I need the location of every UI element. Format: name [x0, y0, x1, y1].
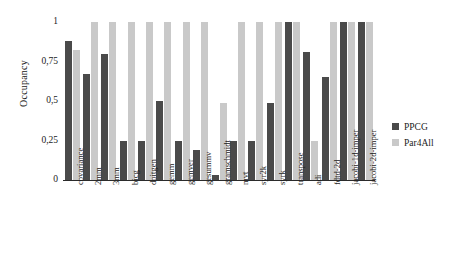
bar-group [267, 22, 282, 180]
bar-chart: Occupancy 00,250,50,751 covariance2mm3mm… [0, 0, 468, 263]
x-tick-label: gemm [167, 164, 176, 185]
bar-par4all [128, 22, 135, 180]
x-tick-label: covariance [76, 148, 85, 185]
plot-area [63, 22, 375, 180]
y-axis-title: Occupancy [18, 39, 29, 129]
legend-swatch-icon [392, 123, 399, 130]
x-tick-label: adi [314, 175, 323, 186]
bar-group [120, 22, 135, 180]
bar-ppcg [322, 77, 329, 180]
legend-item: PPCG [392, 120, 466, 133]
bar-group [156, 22, 171, 180]
bar-par4all [91, 22, 98, 180]
bar-par4all [164, 22, 171, 180]
x-tick-label: mvt [241, 172, 250, 185]
bar-ppcg [65, 41, 72, 180]
x-tick-label: doitgen [149, 159, 158, 185]
x-tick-label: gesummv [204, 152, 213, 185]
legend-item: Par4All [392, 136, 466, 149]
bar-group [83, 22, 98, 180]
y-tick-label: 0,75 [32, 57, 58, 67]
x-tick-label: syrk [278, 170, 287, 185]
bar-par4all [330, 22, 337, 180]
legend-swatch-icon [392, 139, 399, 146]
x-tick-label: jacobi-2d-imper [369, 130, 378, 185]
legend-label: PPCG [404, 122, 428, 132]
bar-ppcg [285, 22, 292, 180]
x-tick-label: gemver [186, 159, 195, 185]
y-tick-label: 1 [32, 17, 58, 27]
bar-group [248, 22, 263, 180]
bar-group [101, 22, 116, 180]
x-tick-label: 2mm [94, 167, 103, 185]
bar-group [175, 22, 190, 180]
bar-ppcg [101, 54, 108, 180]
y-tick-label: 0,5 [32, 96, 58, 106]
bar-group [138, 22, 153, 180]
chart-legend: PPCGPar4All [392, 120, 466, 152]
bar-par4all [183, 22, 190, 180]
x-tick-label: fdtd-2d [333, 160, 342, 185]
x-axis-ticks: covariance2mm3mmbicgdoitgengemmgemverges… [63, 182, 375, 263]
bar-par4all [275, 22, 282, 180]
x-axis-line [63, 180, 375, 181]
x-tick-label: bicg [131, 170, 140, 185]
bar-par4all [109, 22, 116, 180]
x-tick-label: syr2k [259, 166, 268, 185]
bar-group [322, 22, 337, 180]
y-axis-ticks: 00,250,50,751 [28, 0, 58, 263]
legend-label: Par4All [404, 138, 434, 148]
bar-par4all [238, 22, 245, 180]
y-tick-label: 0,25 [32, 136, 58, 146]
x-tick-label: gramschmidt [223, 140, 232, 185]
x-tick-label: jacobi-1d-imper [351, 130, 360, 185]
bar-par4all [146, 22, 153, 180]
bar-par4all [256, 22, 263, 180]
x-tick-label: transpose [296, 153, 305, 185]
bar-ppcg [340, 22, 347, 180]
y-tick-label: 0 [32, 175, 58, 185]
bar-group [303, 22, 318, 180]
bar-group [230, 22, 245, 180]
x-tick-label: 3mm [112, 167, 121, 185]
